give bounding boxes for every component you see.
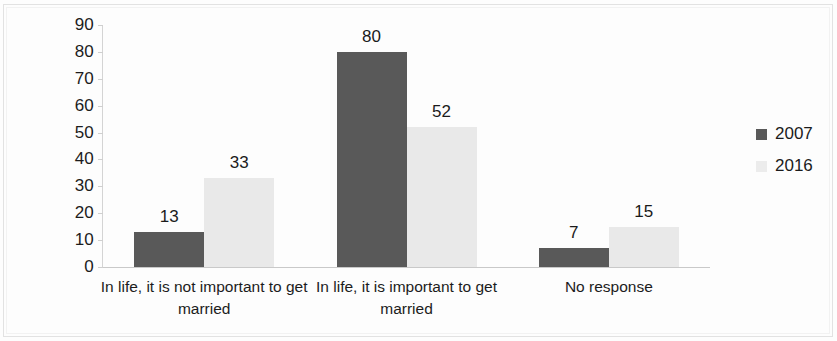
y-axis-tick bbox=[98, 133, 103, 134]
y-axis-tick-label: 70 bbox=[75, 69, 94, 89]
x-axis-line bbox=[102, 267, 710, 268]
y-axis-tick bbox=[98, 186, 103, 187]
bar-2007-cat2: 7 bbox=[539, 248, 609, 267]
bar-value-label: 7 bbox=[569, 223, 578, 243]
legend-label-2007: 2007 bbox=[775, 124, 813, 144]
bar-2016-cat1: 52 bbox=[407, 127, 477, 267]
category-label-1: In life, it is important to get married bbox=[297, 276, 517, 320]
category-label-2: No response bbox=[499, 276, 719, 298]
plot-area: 010203040506070809013338052715 bbox=[103, 25, 710, 267]
legend: 2007 2016 bbox=[756, 118, 813, 182]
y-axis-tick bbox=[98, 79, 103, 80]
bar-chart-figure: 010203040506070809013338052715 In life, … bbox=[0, 0, 837, 341]
legend-item-2016[interactable]: 2016 bbox=[756, 150, 813, 182]
legend-swatch-2007-icon bbox=[756, 129, 767, 140]
y-axis-tick-label: 20 bbox=[75, 203, 94, 223]
y-axis-tick bbox=[98, 159, 103, 160]
y-axis-tick-label: 40 bbox=[75, 149, 94, 169]
y-axis-tick-label: 0 bbox=[84, 257, 94, 277]
y-axis-tick bbox=[98, 52, 103, 53]
bar-2007-cat1: 80 bbox=[337, 52, 407, 267]
bar-value-label: 15 bbox=[634, 202, 653, 222]
y-axis-tick bbox=[98, 25, 103, 26]
bar-2016-cat2: 15 bbox=[609, 227, 679, 267]
y-axis-tick bbox=[98, 213, 103, 214]
y-axis-tick-label: 60 bbox=[75, 96, 94, 116]
bar-value-label: 80 bbox=[362, 27, 381, 47]
y-axis-tick bbox=[98, 267, 103, 268]
legend-item-2007[interactable]: 2007 bbox=[756, 118, 813, 150]
y-axis-tick-label: 80 bbox=[75, 42, 94, 62]
bar-2007-cat0: 13 bbox=[134, 232, 204, 267]
y-axis-tick bbox=[98, 240, 103, 241]
legend-label-2016: 2016 bbox=[775, 156, 813, 176]
category-label-0: In life, it is not important to get marr… bbox=[94, 276, 314, 320]
y-axis-tick-label: 50 bbox=[75, 123, 94, 143]
y-axis-tick-label: 10 bbox=[75, 230, 94, 250]
y-axis-tick bbox=[98, 106, 103, 107]
bar-value-label: 33 bbox=[230, 153, 249, 173]
y-axis-tick-label: 90 bbox=[75, 15, 94, 35]
legend-swatch-2016-icon bbox=[756, 161, 767, 172]
y-axis-tick-label: 30 bbox=[75, 176, 94, 196]
bar-value-label: 52 bbox=[432, 102, 451, 122]
bar-value-label: 13 bbox=[160, 207, 179, 227]
bar-2016-cat0: 33 bbox=[204, 178, 274, 267]
